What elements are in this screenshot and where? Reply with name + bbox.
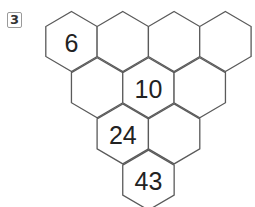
- hex-cell-value: 10: [135, 75, 163, 103]
- hex-cell-value: 6: [65, 29, 79, 57]
- hex-cell-value: 43: [135, 167, 163, 195]
- hex-cell-value: 24: [109, 121, 137, 149]
- hexagon-pyramid: 6102443: [0, 0, 255, 207]
